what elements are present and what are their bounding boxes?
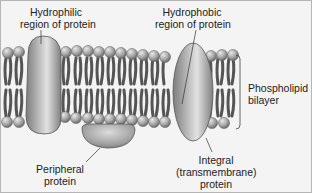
hydrophilic-label: Hydrophilic region of protein [20, 6, 92, 30]
hydrophilic-label-line2: region of protein [20, 18, 92, 30]
integral-label-line3: protein [176, 178, 256, 190]
peripheral-label-line2: protein [30, 175, 90, 187]
hydrophilic-label-line1: Hydrophilic [20, 6, 92, 18]
hydrophobic-label-line1: Hydrophobic [155, 6, 229, 18]
bilayer-label-line1: Phospholipid [248, 82, 308, 94]
hydrophobic-label: Hydrophobic region of protein [155, 6, 229, 30]
peripheral-label-line1: Peripheral [30, 163, 90, 175]
bilayer-label-line2: bilayer [248, 94, 308, 106]
bilayer-label: Phospholipid bilayer [248, 82, 308, 106]
integral-label: Integral (transmembrane) protein [176, 154, 256, 190]
peripheral-label: Peripheral protein [30, 163, 90, 187]
integral-label-line1: Integral [176, 154, 256, 166]
hydrophobic-label-line2: region of protein [155, 18, 229, 30]
integral-protein-left [26, 36, 61, 134]
integral-label-line2: (transmembrane) [176, 166, 256, 178]
integral-protein-right [173, 43, 213, 141]
peripheral-protein [82, 124, 135, 148]
bilayer-bracket [236, 55, 240, 129]
